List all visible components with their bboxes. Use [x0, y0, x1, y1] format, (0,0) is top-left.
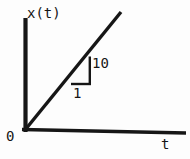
ramp-signal-line [25, 12, 121, 130]
slope-rise-label: 10 [92, 56, 109, 70]
ramp-function-figure: x(t) t 0 10 1 [0, 0, 190, 159]
slope-run-label: 1 [73, 86, 81, 100]
x-axis-line [22, 130, 186, 134]
origin-label: 0 [6, 129, 14, 143]
x-axis-label: t [161, 137, 169, 151]
y-axis-label: x(t) [27, 6, 61, 20]
